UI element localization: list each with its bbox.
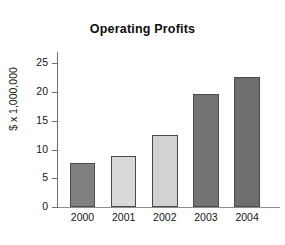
y-tick-label: 15: [14, 115, 48, 126]
x-tick-label: 2003: [184, 212, 228, 223]
y-tick-label: 25: [14, 57, 48, 68]
bar-2003: [193, 94, 219, 207]
y-tick-mark: [52, 178, 58, 179]
bar-2004: [234, 77, 260, 207]
y-tick-mark: [52, 150, 58, 151]
bar-2001: [111, 156, 137, 207]
x-tick-label: 2002: [143, 212, 187, 223]
y-tick-mark: [52, 121, 58, 122]
y-tick-mark: [52, 92, 58, 93]
chart-title: Operating Profits: [0, 22, 285, 36]
y-tick-label: 0: [14, 201, 48, 212]
bar-2000: [70, 163, 96, 207]
y-tick-label: 10: [14, 144, 48, 155]
y-tick-label: 20: [14, 86, 48, 97]
y-tick-mark: [52, 63, 58, 64]
bar-2002: [152, 135, 178, 207]
x-tick-label: 2004: [225, 212, 269, 223]
y-tick-mark: [52, 207, 58, 208]
x-axis-spine: [57, 207, 280, 208]
y-tick-label: 5: [14, 172, 48, 183]
x-tick-label: 2001: [102, 212, 146, 223]
chart-figure: Operating Profits $ x 1,000,000 05101520…: [0, 0, 285, 245]
x-tick-label: 2000: [61, 212, 105, 223]
